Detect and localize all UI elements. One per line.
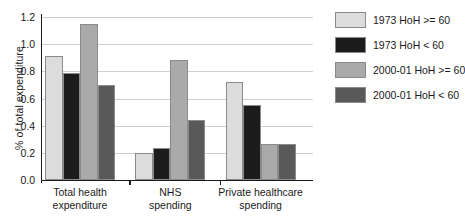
bar bbox=[188, 120, 206, 180]
bar bbox=[98, 85, 116, 180]
bar bbox=[226, 82, 244, 180]
legend-item: 1973 HoH < 60 bbox=[335, 36, 449, 61]
chart-legend: 1973 HoH >= 601973 HoH < 602000-01 HoH >… bbox=[335, 11, 449, 111]
bar bbox=[135, 153, 153, 180]
bar-group bbox=[135, 17, 205, 180]
bar bbox=[170, 60, 188, 180]
bar bbox=[278, 144, 296, 180]
bar bbox=[261, 144, 279, 180]
legend-item: 2000-01 HoH >= 60 bbox=[335, 61, 449, 86]
bar-group bbox=[45, 17, 115, 180]
legend-swatch bbox=[335, 87, 366, 103]
bar-group bbox=[226, 17, 296, 180]
bar bbox=[153, 148, 171, 180]
y-axis-tick-labels: 1.21.00.80.60.40.20.0 bbox=[0, 17, 42, 180]
y-axis-tick-label: 1.2 bbox=[0, 12, 35, 23]
y-axis-tick-label: 0.0 bbox=[0, 175, 35, 186]
legend-swatch bbox=[335, 37, 366, 53]
legend-label: 2000-01 HoH >= 60 bbox=[373, 63, 465, 77]
x-axis-tick-label: Private healthcare spending bbox=[201, 186, 321, 211]
legend-item: 2000-01 HoH < 60 bbox=[335, 86, 449, 111]
y-axis-tick-label: 1.0 bbox=[0, 39, 35, 50]
plot-area: 1.21.00.80.60.40.20.0 Total health expen… bbox=[42, 17, 313, 180]
y-axis-tick-label: 0.8 bbox=[0, 66, 35, 77]
y-axis-tick-label: 0.4 bbox=[0, 121, 35, 132]
bar bbox=[80, 24, 98, 180]
y-axis-tick-label: 0.6 bbox=[0, 94, 35, 105]
legend-item: 1973 HoH >= 60 bbox=[335, 11, 449, 36]
legend-label: 1973 HoH < 60 bbox=[373, 38, 444, 52]
legend-label: 2000-01 HoH < 60 bbox=[373, 88, 459, 102]
legend-swatch bbox=[335, 12, 366, 28]
x-axis-line bbox=[41, 180, 313, 181]
legend-label: 1973 HoH >= 60 bbox=[373, 13, 450, 27]
y-axis-line bbox=[41, 14, 42, 183]
y-axis-tick-label: 0.2 bbox=[0, 148, 35, 159]
bar bbox=[45, 56, 63, 180]
bar bbox=[243, 105, 261, 180]
bar bbox=[63, 73, 81, 180]
legend-swatch bbox=[335, 62, 366, 78]
